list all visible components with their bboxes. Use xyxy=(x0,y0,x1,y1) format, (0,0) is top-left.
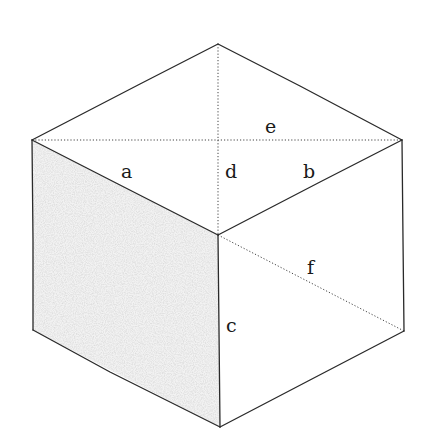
label-d: d xyxy=(225,160,237,182)
label-a: a xyxy=(121,160,132,182)
label-e: e xyxy=(265,115,276,137)
label-b: b xyxy=(303,160,315,182)
edge-left-vertical xyxy=(32,140,33,330)
label-c: c xyxy=(226,314,237,336)
cube-diagram: e a d b f c xyxy=(0,0,436,448)
